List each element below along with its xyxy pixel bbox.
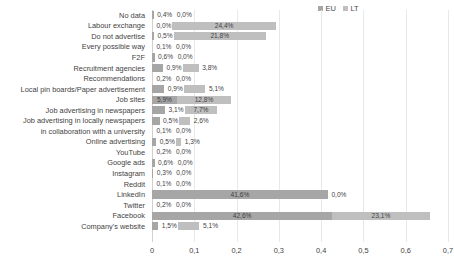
bar-segment-eu[interactable]: 0,5% xyxy=(152,138,156,146)
bar-segment-lt[interactable]: 3,8% xyxy=(183,64,199,72)
bar-chart: EULT No data0,4%0,0%Labour exchange0,0%2… xyxy=(0,0,454,266)
bar-track: 0,2%0,0% xyxy=(152,73,448,84)
bar-segment-eu[interactable]: 5,9% xyxy=(152,96,177,104)
bar-value-label-eu: 0,1% xyxy=(155,127,173,135)
bar-segment-eu[interactable]: 0,6% xyxy=(152,53,155,61)
bar-value-label-lt: 0,0% xyxy=(176,53,194,61)
x-axis-tick-label: 0,4 xyxy=(316,246,326,255)
x-axis-tick-label: 0,3 xyxy=(274,246,284,255)
bar-track: 0,1%0,0% xyxy=(152,126,448,137)
category-label: LinkedIn xyxy=(0,190,145,199)
category-label: Job sites xyxy=(0,95,145,104)
bar-segment-lt[interactable]: 5,1% xyxy=(184,85,206,93)
bar-value-label-eu: 0,1% xyxy=(155,180,173,188)
bar-segment-lt[interactable]: 1,3% xyxy=(176,138,181,146)
bar-track: 41,6%0,0% xyxy=(152,189,448,200)
bar-segment-eu[interactable]: 3,1% xyxy=(152,106,165,114)
category-label: Labour exchange xyxy=(0,21,145,30)
bar-rows: No data0,4%0,0%Labour exchange0,0%24,4%D… xyxy=(0,10,454,231)
bar-segment-eu[interactable]: 0,3% xyxy=(152,169,153,177)
bar-segment-eu[interactable]: 0,1% xyxy=(152,43,153,51)
bar-value-label-eu: 42,6% xyxy=(231,212,253,220)
bar-stack: 0,3%0,0% xyxy=(152,169,173,177)
bar-segment-eu[interactable]: 0,5% xyxy=(152,117,160,125)
bar-value-label-lt: 0,0% xyxy=(175,11,193,19)
bar-value-label-eu: 0,0% xyxy=(155,22,173,30)
bar-track: 0,1%0,0% xyxy=(152,42,448,53)
bar-track: 0,9%3,8% xyxy=(152,63,448,74)
bar-value-label-lt: 0,0% xyxy=(174,201,192,209)
bar-segment-eu[interactable]: 1,5% xyxy=(152,222,158,230)
bar-track: 0,5%1,3% xyxy=(152,137,448,148)
bar-segment-eu[interactable]: 41,6% xyxy=(152,190,328,198)
bar-track: 42,6%23,1% xyxy=(152,210,448,221)
bar-segment-lt[interactable]: 23,1% xyxy=(332,212,430,220)
bar-track: 3,1%7,7% xyxy=(152,105,448,116)
bar-stack: 42,6%23,1% xyxy=(152,212,430,220)
bar-value-label-lt: 23,1% xyxy=(370,212,392,220)
bar-segment-lt[interactable]: 24,4% xyxy=(172,22,275,30)
bar-value-label-eu: 5,9% xyxy=(155,96,173,104)
bar-value-label-eu: 0,5% xyxy=(156,32,174,40)
bar-value-label-lt: 2,6% xyxy=(192,117,210,125)
bar-segment-eu[interactable]: 0,4% xyxy=(152,11,154,19)
category-label: YouTube xyxy=(0,148,145,157)
category-label: Reddit xyxy=(0,180,145,189)
bar-segment-lt[interactable]: 12,8% xyxy=(177,96,231,104)
bar-value-label-eu: 0,5% xyxy=(162,117,180,125)
bar-segment-eu[interactable]: 0,1% xyxy=(152,127,153,135)
bar-value-label-lt: 0,0% xyxy=(174,148,192,156)
bar-segment-eu[interactable]: 0,1% xyxy=(152,180,153,188)
bar-value-label-eu: 0,9% xyxy=(165,64,183,72)
bar-row: Reddit0,1%0,0% xyxy=(0,179,454,190)
bar-value-label-lt: 5,1% xyxy=(207,85,225,93)
bar-stack: 1,5%5,1% xyxy=(152,222,199,230)
bar-segment-eu[interactable]: 0,9% xyxy=(152,85,164,93)
bar-segment-lt[interactable]: 5,1% xyxy=(178,222,200,230)
bar-segment-eu[interactable]: 0,9% xyxy=(152,64,163,72)
bar-track: 0,2%0,0% xyxy=(152,200,448,211)
bar-value-label-eu: 3,1% xyxy=(167,106,185,114)
bar-stack: 0,6%0,0% xyxy=(152,159,174,167)
bar-track: 0,0%24,4% xyxy=(152,21,448,32)
bar-value-label-lt: 0,0% xyxy=(330,191,348,199)
bar-segment-eu[interactable]: 0,2% xyxy=(152,201,153,209)
bar-value-label-eu: 0,2% xyxy=(155,148,173,156)
bar-row: YouTube0,2%0,0% xyxy=(0,147,454,158)
bar-segment-eu[interactable]: 0,2% xyxy=(152,148,153,156)
bar-row: Twitter0,2%0,0% xyxy=(0,200,454,211)
bar-track: 0,6%0,0% xyxy=(152,158,448,169)
x-axis-tick-label: 0,1 xyxy=(189,246,199,255)
bar-value-label-eu: 0,1% xyxy=(155,43,173,51)
bar-segment-eu[interactable]: 0,2% xyxy=(152,74,153,82)
category-label: F2F xyxy=(0,53,145,62)
plot-area: No data0,4%0,0%Labour exchange0,0%24,4%D… xyxy=(0,10,454,242)
bar-stack: 0,5%1,3% xyxy=(152,138,181,146)
x-axis-tick-label: 0,5 xyxy=(358,246,368,255)
bar-segment-lt[interactable]: 2,6% xyxy=(179,117,190,125)
bar-track: 0,6%0,0% xyxy=(152,52,448,63)
bar-value-label-eu: 0,6% xyxy=(157,53,175,61)
bar-row: Recruitment agencies0,9%3,8% xyxy=(0,63,454,74)
bar-segment-eu[interactable]: 0,5% xyxy=(152,32,154,40)
bar-value-label-eu: 0,2% xyxy=(155,75,173,83)
bar-stack: 0,2%0,0% xyxy=(152,148,172,156)
bar-row: No data0,4%0,0% xyxy=(0,10,454,21)
category-label: Facebook xyxy=(0,211,145,220)
bar-track: 0,5%2,6% xyxy=(152,115,448,126)
bar-segment-lt[interactable]: 21,8% xyxy=(174,32,266,40)
bar-row: F2F0,6%0,0% xyxy=(0,52,454,63)
bar-segment-eu[interactable]: 0,0% xyxy=(152,22,153,30)
bar-segment-lt[interactable]: 7,7% xyxy=(185,106,218,114)
bar-stack: 0,6%0,0% xyxy=(152,53,174,61)
bar-value-label-lt: 1,3% xyxy=(183,138,201,146)
bar-value-label-lt: 0,0% xyxy=(176,159,194,167)
bar-segment-eu[interactable]: 42,6% xyxy=(152,212,332,220)
bar-segment-eu[interactable]: 0,6% xyxy=(152,159,155,167)
bar-value-label-lt: 0,0% xyxy=(174,75,192,83)
bar-stack: 0,2%0,0% xyxy=(152,201,172,209)
bar-value-label-lt: 24,4% xyxy=(213,22,235,30)
bar-value-label-lt: 5,1% xyxy=(201,222,219,230)
bar-stack: 41,6%0,0% xyxy=(152,190,328,198)
bar-stack: 0,5%21,8% xyxy=(152,32,266,40)
